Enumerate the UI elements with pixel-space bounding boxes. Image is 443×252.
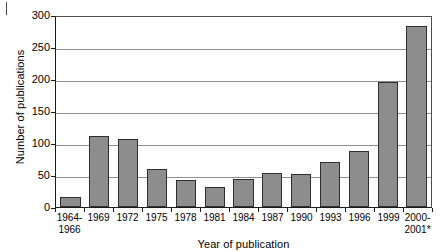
y-tick-label: 100: [22, 138, 50, 149]
bar: [262, 173, 282, 207]
x-tick-label: 1990: [287, 212, 316, 236]
x-tick-label: 1984: [229, 212, 258, 236]
y-tick-label: 200: [22, 74, 50, 85]
bar: [233, 179, 253, 207]
x-tick-label: 1987: [258, 212, 287, 236]
y-tick-label: 300: [22, 10, 50, 21]
bar-slot: [56, 17, 85, 207]
bar-slot: [344, 17, 373, 207]
y-tick-label: 250: [22, 42, 50, 53]
y-tick-label: 0: [22, 202, 50, 213]
bar: [60, 197, 80, 207]
y-tick-label: 150: [22, 106, 50, 117]
bar: [378, 82, 398, 207]
x-tick-label: 1964- 1966: [55, 212, 84, 236]
x-axis-tick-labels: 1964- 1966196919721975197819811984198719…: [55, 212, 432, 236]
x-tick-label: 1996: [345, 212, 374, 236]
x-tick-mark: [432, 208, 433, 212]
x-tick-label: 1999: [374, 212, 403, 236]
bar: [320, 162, 340, 207]
x-tick-label: 2000- 2001*: [403, 212, 432, 236]
bar: [89, 136, 109, 207]
bar: [406, 26, 426, 207]
bar: [349, 151, 369, 207]
y-axis-tick-labels: 050100150200250300: [22, 0, 50, 252]
bar: [176, 180, 196, 207]
plot-area: [55, 16, 432, 208]
x-tick-label: 1993: [316, 212, 345, 236]
crop-mark: [6, 2, 7, 15]
bar-series: [56, 17, 431, 207]
bar: [205, 187, 225, 207]
bar-slot: [316, 17, 345, 207]
x-tick-label: 1978: [171, 212, 200, 236]
bar-slot: [258, 17, 287, 207]
bar: [118, 139, 138, 207]
x-tick-label: 1969: [84, 212, 113, 236]
bar-slot: [171, 17, 200, 207]
bar-slot: [287, 17, 316, 207]
bar: [147, 169, 167, 207]
bar-slot: [143, 17, 172, 207]
x-tick-label: 1972: [113, 212, 142, 236]
y-tick-label: 50: [22, 170, 50, 181]
bar-slot: [114, 17, 143, 207]
bar-slot: [402, 17, 431, 207]
x-axis-title: Year of publication: [55, 238, 432, 250]
bar-slot: [373, 17, 402, 207]
bar: [291, 174, 311, 207]
bar-slot: [200, 17, 229, 207]
bar-slot: [229, 17, 258, 207]
bar-slot: [85, 17, 114, 207]
publications-bar-chart: Number of publications 05010015020025030…: [0, 0, 443, 252]
x-tick-label: 1981: [200, 212, 229, 236]
x-tick-label: 1975: [142, 212, 171, 236]
